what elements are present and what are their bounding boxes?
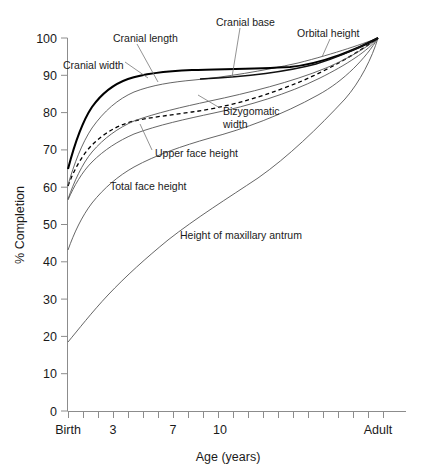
x-tick-label-3: 3 — [110, 423, 117, 437]
y-axis-ticks — [61, 38, 68, 411]
chart-container: 100 90 80 70 60 50 40 30 20 10 0 % Compl… — [0, 0, 424, 470]
y-tick-label: 90 — [43, 69, 57, 83]
y-tick-label: 70 — [43, 143, 57, 157]
x-tick-label-7: 7 — [170, 423, 177, 437]
y-tick-label: 80 — [43, 106, 57, 120]
label-upper-face-height: Upper face height — [155, 147, 238, 159]
y-tick-label: 100 — [36, 32, 57, 46]
y-tick-label: 50 — [43, 218, 57, 232]
label-orbital-height: Orbital height — [297, 27, 360, 39]
leader-bizygomatic-width — [198, 95, 220, 108]
x-tick-label-birth: Birth — [55, 423, 81, 437]
y-tick-label: 60 — [43, 181, 57, 195]
x-tick-label-10: 10 — [213, 423, 227, 437]
y-tick-label: 30 — [43, 293, 57, 307]
y-axis-title: % Completion — [13, 186, 27, 264]
x-axis-tick-labels: Birth 3 7 10 Adult — [55, 423, 393, 437]
label-cranial-base: Cranial base — [216, 16, 275, 28]
label-bizygomatic-width-line2: width — [222, 118, 248, 130]
annotation-labels: Cranial width Cranial length Cranial bas… — [63, 16, 360, 241]
leader-upper-face-height — [140, 124, 152, 150]
annotation-leader-lines — [125, 28, 330, 150]
y-tick-label: 0 — [50, 405, 57, 419]
label-height-of-maxillary-antrum: Height of maxillary antrum — [180, 229, 302, 241]
label-total-face-height: Total face height — [110, 180, 187, 192]
growth-completion-chart: 100 90 80 70 60 50 40 30 20 10 0 % Compl… — [0, 0, 424, 470]
x-tick-label-adult: Adult — [364, 423, 393, 437]
y-tick-label: 20 — [43, 330, 57, 344]
y-axis-tick-labels: 100 90 80 70 60 50 40 30 20 10 0 — [36, 32, 57, 419]
y-tick-label: 40 — [43, 255, 57, 269]
label-cranial-width: Cranial width — [63, 59, 124, 71]
curve-orbital-height — [200, 38, 378, 79]
x-axis-ticks — [69, 412, 384, 419]
y-tick-label: 10 — [43, 367, 57, 381]
axes — [68, 38, 407, 412]
label-bizygomatic-width-line1: Bizygomatic — [223, 105, 280, 117]
x-axis-title: Age (years) — [196, 450, 261, 464]
label-cranial-length: Cranial length — [113, 32, 178, 44]
